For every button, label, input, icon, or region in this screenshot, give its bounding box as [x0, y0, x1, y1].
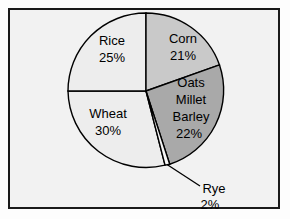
- rice-label-value: 25%: [99, 50, 125, 65]
- oats-label-line3: Barley: [173, 109, 210, 124]
- oats-label-line2: Millet: [176, 92, 207, 107]
- rice-label-name: Rice: [99, 33, 125, 48]
- wheat-label-value: 30%: [95, 123, 121, 138]
- slice-label-rye: Rye 2%: [201, 181, 226, 212]
- rye-label-value: 2%: [201, 197, 220, 212]
- corn-label-name: Corn: [169, 31, 197, 46]
- rye-label-name: Rye: [202, 181, 225, 196]
- oats-label-line1: Oats: [177, 75, 205, 90]
- oats-label-value: 22%: [176, 126, 202, 141]
- rye-leader-line: [167, 165, 200, 186]
- corn-label-value: 21%: [170, 48, 196, 63]
- chart-canvas: Rice 25% Corn 21% Wheat 30% Oats Millet …: [0, 0, 290, 219]
- pie-chart: Rice 25% Corn 21% Wheat 30% Oats Millet …: [0, 0, 290, 219]
- wheat-label-name: Wheat: [89, 106, 127, 121]
